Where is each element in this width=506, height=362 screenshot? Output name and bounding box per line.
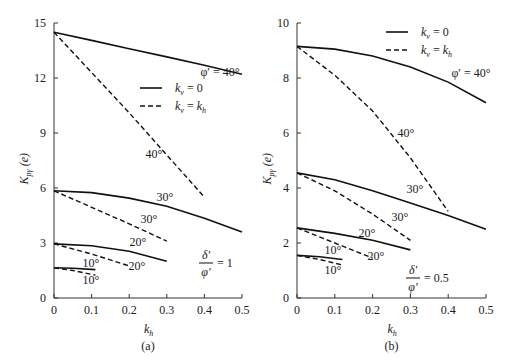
curve-label: 30° <box>141 212 158 226</box>
curve-label: φ′ = 40° <box>451 66 490 80</box>
curve-label: 30° <box>407 182 424 196</box>
curve-label: 40° <box>398 126 415 140</box>
series-line-kv0 <box>54 244 167 261</box>
legend-label-kv0: kv = 0 <box>421 25 449 41</box>
curve-label: 20° <box>368 249 385 263</box>
y-tick-label: 0 <box>40 291 46 305</box>
x-tick-label: 0.3 <box>403 303 418 317</box>
x-tick-label: 0.1 <box>84 303 99 317</box>
curve-label: 40° <box>146 147 163 161</box>
x-tick-label: 0.5 <box>479 303 494 317</box>
curve-label: 30° <box>392 210 409 224</box>
ratio-denominator: φ′ <box>408 280 418 294</box>
x-axis-label: kh <box>144 322 153 338</box>
y-tick-label: 9 <box>40 126 46 140</box>
y-axis-label: Kpγ (e) <box>260 153 276 186</box>
x-tick-label: 0 <box>294 303 300 317</box>
series-line-kvkh <box>297 46 448 211</box>
legend-label-kvkh: kv = kh <box>175 99 206 115</box>
curve-label: 20° <box>359 226 376 240</box>
ratio-denominator: φ′ <box>201 265 211 279</box>
x-tick-label: 0.2 <box>122 303 137 317</box>
x-tick-label: 0.3 <box>159 303 174 317</box>
series-line-kv0 <box>297 228 410 250</box>
figure: 00.10.20.30.40.503691215kh(a)Kpγ (e)φ′ =… <box>0 0 506 362</box>
y-tick-label: 3 <box>40 236 46 250</box>
panel-label: (b) <box>385 339 399 353</box>
x-tick-label: 0 <box>51 303 57 317</box>
x-axis-label: kh <box>388 322 397 338</box>
x-tick-label: 0.2 <box>365 303 380 317</box>
y-tick-label: 6 <box>283 126 289 140</box>
y-tick-label: 15 <box>34 16 46 30</box>
curve-label: 10° <box>83 273 100 287</box>
curve-label: 20° <box>130 235 147 249</box>
chart-panel-b: 00.10.20.30.40.50246810kh(b)Kpγ (e)φ′ = … <box>260 16 494 353</box>
legend-label-kv0: kv = 0 <box>175 81 203 97</box>
curve-label: 20° <box>129 259 146 273</box>
curve-label: φ′ = 40° <box>200 65 239 79</box>
panel-label: (a) <box>141 339 154 353</box>
y-tick-label: 4 <box>283 181 289 195</box>
ratio-numerator: δ′ <box>202 248 211 262</box>
x-tick-label: 0.1 <box>327 303 342 317</box>
legend-label-kvkh: kv = kh <box>421 43 452 59</box>
ratio-numerator: δ′ <box>409 263 418 277</box>
chart-panel-a: 00.10.20.30.40.503691215kh(a)Kpγ (e)φ′ =… <box>17 16 250 353</box>
ratio-value: = 0.5 <box>424 271 449 285</box>
curve-label: 30° <box>157 190 174 204</box>
y-axis-label: Kpγ (e) <box>17 153 33 186</box>
x-tick-label: 0.4 <box>197 303 212 317</box>
curve-label: 10° <box>325 243 342 257</box>
ratio-value: = 1 <box>217 256 233 270</box>
curve-label: 10° <box>83 256 100 270</box>
x-tick-label: 0.5 <box>235 303 250 317</box>
y-tick-label: 8 <box>283 71 289 85</box>
y-tick-label: 6 <box>40 181 46 195</box>
x-tick-label: 0.4 <box>441 303 456 317</box>
y-tick-label: 12 <box>34 71 46 85</box>
y-tick-label: 0 <box>283 291 289 305</box>
y-tick-label: 10 <box>277 16 289 30</box>
curve-label: 10° <box>325 263 342 277</box>
y-tick-label: 2 <box>283 236 289 250</box>
